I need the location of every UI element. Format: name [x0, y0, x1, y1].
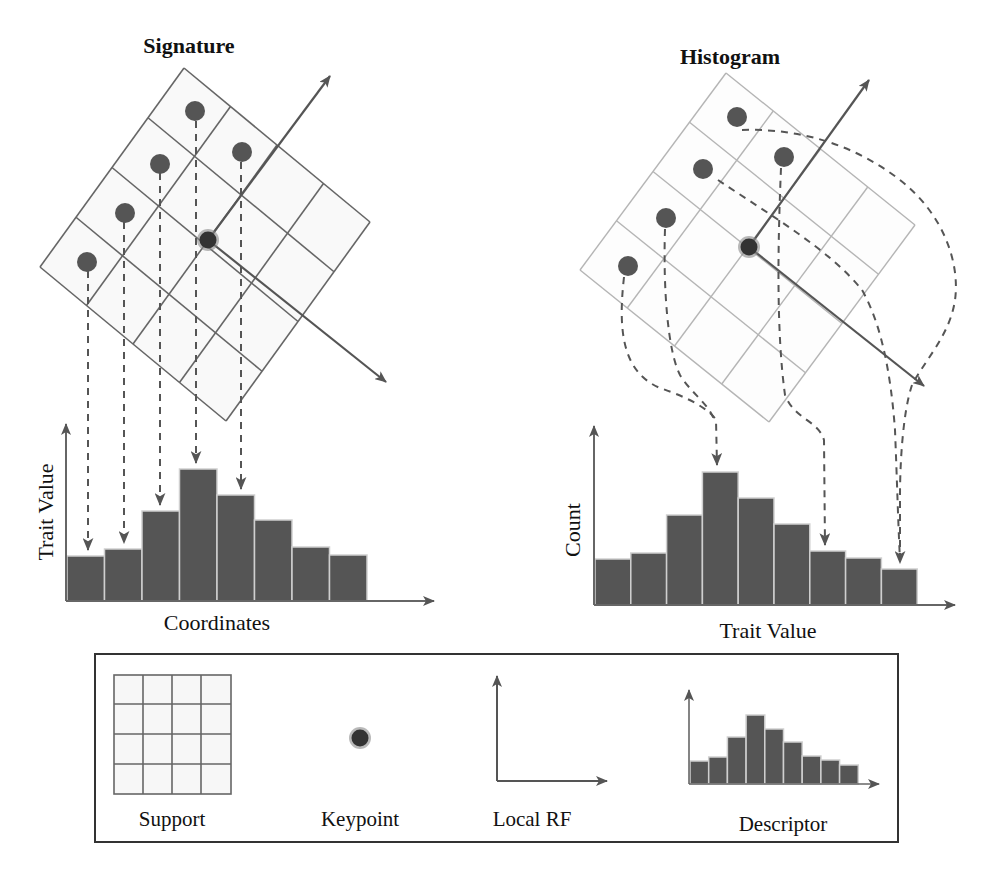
histogram-bar	[330, 555, 368, 601]
support-point	[693, 159, 713, 179]
signature-y-label: Trait Value	[33, 463, 58, 560]
legend-item-local-rf: Local RF	[493, 676, 607, 831]
histogram-bar	[746, 715, 765, 784]
support-grid-icon	[114, 675, 231, 794]
legend-label-descriptor: Descriptor	[739, 812, 828, 836]
keypoint	[741, 239, 758, 256]
signature-panel: Signature Tra	[33, 33, 434, 635]
keypoint	[200, 232, 217, 249]
histogram-bar	[631, 553, 667, 605]
diagram-canvas: Signature Tra	[0, 0, 993, 870]
legend-item-descriptor: Descriptor	[689, 690, 879, 836]
histogram-bar	[784, 742, 803, 784]
support-point	[727, 107, 747, 127]
histogram-bar	[105, 549, 143, 601]
support-point	[150, 154, 170, 174]
histogram-panel: Histogram	[560, 44, 956, 643]
legend-item-keypoint: Keypoint	[321, 727, 399, 831]
descriptor-histogram-icon	[690, 715, 858, 784]
local-rf-axes-icon	[497, 676, 607, 781]
legend-label-support: Support	[139, 807, 206, 831]
histogram-bar	[67, 556, 105, 601]
legend-item-support: Support	[114, 675, 231, 831]
histogram-bar	[821, 760, 840, 784]
histogram-bar	[840, 765, 859, 784]
histogram-bar	[180, 469, 218, 601]
legend-label-local-rf: Local RF	[493, 807, 572, 831]
histogram-bar	[255, 520, 293, 601]
histogram-bar	[774, 524, 810, 605]
histogram-y-label: Count	[560, 503, 585, 557]
histogram-bar	[702, 472, 738, 605]
support-point	[232, 142, 252, 162]
histogram-x-label: Trait Value	[719, 618, 816, 643]
legend-label-keypoint: Keypoint	[321, 807, 399, 831]
histogram-bar	[709, 757, 728, 784]
histogram-bars	[595, 472, 917, 605]
keypoint-dot	[352, 730, 369, 747]
histogram-bar	[765, 729, 784, 784]
signature-bars	[67, 469, 367, 601]
legend: Support Keypoint Local RF Descriptor	[95, 654, 898, 842]
support-point	[774, 147, 794, 167]
support-point	[656, 208, 676, 228]
signature-x-label: Coordinates	[164, 610, 270, 635]
histogram-bar	[881, 569, 917, 605]
histogram-bar	[217, 495, 255, 601]
histogram-title: Histogram	[680, 44, 780, 69]
support-point	[185, 101, 205, 121]
histogram-bar	[810, 551, 846, 605]
signature-title: Signature	[143, 33, 235, 58]
histogram-bar	[142, 511, 180, 601]
histogram-bar	[667, 515, 703, 605]
histogram-bar	[727, 737, 746, 784]
histogram-bar	[690, 761, 709, 784]
histogram-bar	[595, 559, 631, 605]
support-point	[77, 252, 97, 272]
histogram-bar	[802, 756, 821, 784]
histogram-bar	[292, 547, 330, 601]
support-point	[115, 203, 135, 223]
histogram-bar	[738, 498, 774, 605]
support-point	[618, 256, 638, 276]
histogram-bar	[846, 558, 882, 605]
